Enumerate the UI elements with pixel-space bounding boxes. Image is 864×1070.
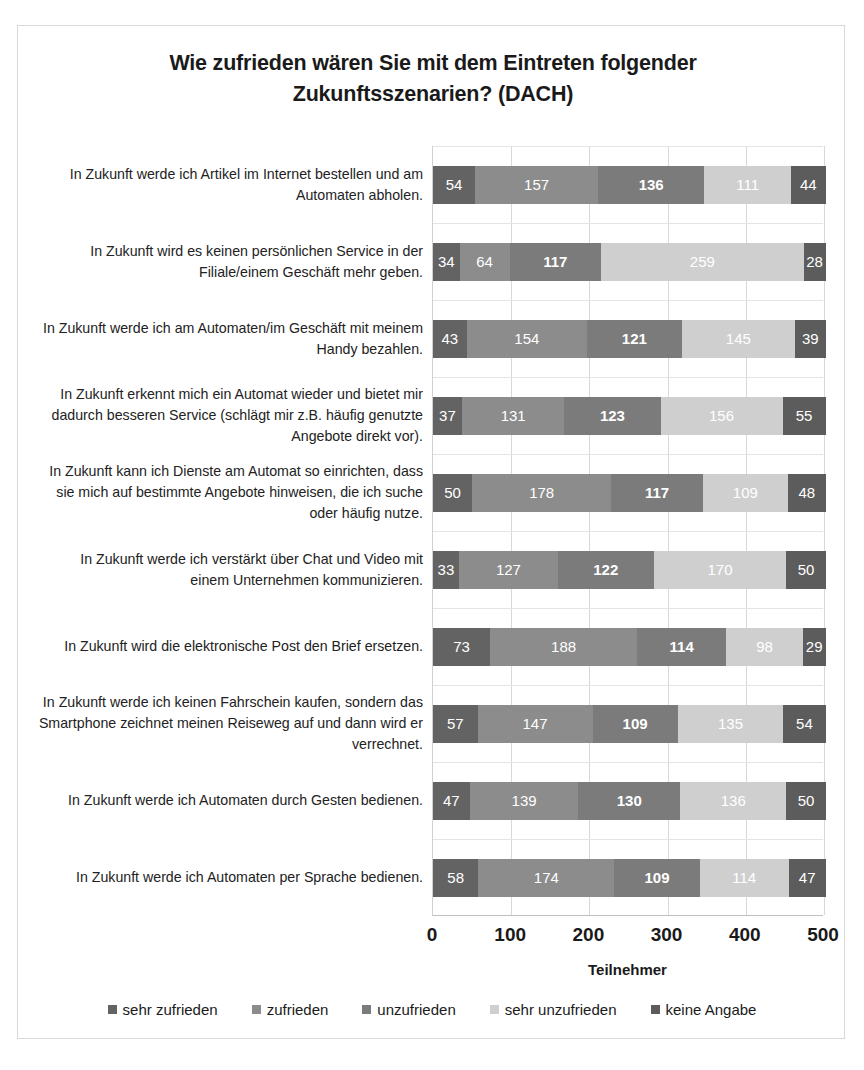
bar-segment[interactable]: 111 bbox=[704, 166, 791, 204]
category-label: In Zukunft werde ich am Automaten/im Ges… bbox=[38, 318, 423, 360]
legend-swatch-icon bbox=[108, 1005, 117, 1014]
chart-frame: Wie zufrieden wären Sie mit dem Eintrete… bbox=[17, 25, 845, 1039]
bar-segment[interactable]: 131 bbox=[462, 397, 564, 435]
chart-row: 4713913013650 bbox=[433, 762, 823, 839]
legend-swatch-icon bbox=[252, 1005, 261, 1014]
bar-segment[interactable]: 122 bbox=[558, 551, 653, 589]
bar-segment[interactable]: 145 bbox=[682, 320, 795, 358]
legend-item[interactable]: unzufrieden bbox=[362, 1001, 455, 1018]
bar-segment[interactable]: 109 bbox=[703, 474, 788, 512]
bar-segment[interactable]: 170 bbox=[654, 551, 787, 589]
bar-segment[interactable]: 73 bbox=[433, 628, 490, 666]
chart-row: 346411725928 bbox=[433, 223, 823, 300]
stacked-bar[interactable]: 3713112315655 bbox=[433, 397, 826, 435]
x-tick-label: 0 bbox=[402, 924, 462, 946]
bar-segment[interactable]: 121 bbox=[587, 320, 682, 358]
bar-segment[interactable]: 127 bbox=[459, 551, 558, 589]
x-tick-label: 200 bbox=[558, 924, 618, 946]
bar-segment[interactable]: 39 bbox=[795, 320, 825, 358]
bar-segment[interactable]: 58 bbox=[433, 859, 478, 897]
bar-segment[interactable]: 135 bbox=[678, 705, 784, 743]
chart-row: 5017811710948 bbox=[433, 454, 823, 531]
category-label: In Zukunft werde ich keinen Fahrschein k… bbox=[38, 692, 423, 755]
bar-segment[interactable]: 136 bbox=[598, 166, 704, 204]
bar-segment[interactable]: 50 bbox=[433, 474, 472, 512]
bar-segment[interactable]: 34 bbox=[433, 243, 460, 281]
bar-segment[interactable]: 29 bbox=[803, 628, 826, 666]
stacked-bar[interactable]: 4713913013650 bbox=[433, 782, 826, 820]
plot-area: 5415713611144346411725928431541211453937… bbox=[432, 146, 823, 916]
x-tick-label: 400 bbox=[715, 924, 775, 946]
stacked-bar[interactable]: 5817410911447 bbox=[433, 859, 826, 897]
legend-swatch-icon bbox=[362, 1005, 371, 1014]
bar-segment[interactable]: 156 bbox=[661, 397, 783, 435]
bar-segment[interactable]: 47 bbox=[433, 782, 470, 820]
stacked-bar[interactable]: 731881149829 bbox=[433, 628, 826, 666]
bar-segment[interactable]: 47 bbox=[789, 859, 826, 897]
legend-label: keine Angabe bbox=[666, 1001, 757, 1018]
bar-segment[interactable]: 54 bbox=[433, 166, 475, 204]
bar-segment[interactable]: 154 bbox=[467, 320, 587, 358]
legend-swatch-icon bbox=[651, 1005, 660, 1014]
bar-segment[interactable]: 188 bbox=[490, 628, 637, 666]
chart-legend: sehr zufriedenzufriedenunzufriedensehr u… bbox=[18, 1001, 846, 1018]
stacked-bar[interactable]: 5017811710948 bbox=[433, 474, 826, 512]
category-label: In Zukunft erkennt mich ein Automat wied… bbox=[38, 384, 423, 447]
legend-item[interactable]: sehr zufrieden bbox=[108, 1001, 218, 1018]
bar-segment[interactable]: 44 bbox=[791, 166, 825, 204]
bar-segment[interactable]: 147 bbox=[478, 705, 593, 743]
chart-row: 3312712217050 bbox=[433, 531, 823, 608]
legend-item[interactable]: keine Angabe bbox=[651, 1001, 757, 1018]
bar-segment[interactable]: 57 bbox=[433, 705, 478, 743]
category-label: In Zukunft werde ich verstärkt über Chat… bbox=[38, 549, 423, 591]
chart-row: 5415713611144 bbox=[433, 146, 823, 223]
bar-segment[interactable]: 259 bbox=[601, 243, 804, 281]
bar-segment[interactable]: 139 bbox=[470, 782, 579, 820]
category-label: In Zukunft werde ich Artikel im Internet… bbox=[38, 164, 423, 206]
chart-title: Wie zufrieden wären Sie mit dem Eintrete… bbox=[58, 48, 808, 110]
bar-segment[interactable]: 33 bbox=[433, 551, 459, 589]
bar-segment[interactable]: 174 bbox=[478, 859, 614, 897]
chart-row: 5817410911447 bbox=[433, 839, 823, 916]
stacked-bar[interactable]: 5415713611144 bbox=[433, 166, 826, 204]
stacked-bar[interactable]: 346411725928 bbox=[433, 243, 826, 281]
bar-segment[interactable]: 109 bbox=[614, 859, 699, 897]
category-label: In Zukunft kann ich Dienste am Automat s… bbox=[38, 461, 423, 524]
stacked-bar[interactable]: 3312712217050 bbox=[433, 551, 826, 589]
bar-segment[interactable]: 50 bbox=[786, 551, 825, 589]
bar-segment[interactable]: 64 bbox=[460, 243, 510, 281]
stacked-bar[interactable]: 4315412114539 bbox=[433, 320, 826, 358]
x-tick-label: 300 bbox=[637, 924, 697, 946]
bar-segment[interactable]: 123 bbox=[564, 397, 660, 435]
stacked-bar[interactable]: 5714710913554 bbox=[433, 705, 826, 743]
bar-segment[interactable]: 98 bbox=[726, 628, 803, 666]
legend-item[interactable]: sehr unzufrieden bbox=[490, 1001, 617, 1018]
bar-segment[interactable]: 37 bbox=[433, 397, 462, 435]
bar-segment[interactable]: 43 bbox=[433, 320, 467, 358]
chart-row: 731881149829 bbox=[433, 608, 823, 685]
bar-segment[interactable]: 48 bbox=[788, 474, 826, 512]
bar-segment[interactable]: 55 bbox=[783, 397, 826, 435]
bar-segment[interactable]: 178 bbox=[472, 474, 611, 512]
bar-segment[interactable]: 109 bbox=[593, 705, 678, 743]
bar-segment[interactable]: 28 bbox=[804, 243, 826, 281]
bar-segment[interactable]: 130 bbox=[578, 782, 680, 820]
bar-segment[interactable]: 136 bbox=[680, 782, 786, 820]
bar-segment[interactable]: 50 bbox=[786, 782, 825, 820]
category-label: In Zukunft wird die elektronische Post d… bbox=[38, 636, 423, 657]
bar-segment[interactable]: 54 bbox=[783, 705, 825, 743]
legend-swatch-icon bbox=[490, 1005, 499, 1014]
chart-row: 4315412114539 bbox=[433, 300, 823, 377]
bar-segment[interactable]: 114 bbox=[700, 859, 789, 897]
legend-item[interactable]: zufrieden bbox=[252, 1001, 329, 1018]
bar-segment[interactable]: 157 bbox=[475, 166, 598, 204]
category-label: In Zukunft werde ich Automaten per Sprac… bbox=[38, 867, 423, 888]
chart-title-line-1: Wie zufrieden wären Sie mit dem Eintrete… bbox=[58, 48, 808, 79]
bar-segment[interactable]: 114 bbox=[637, 628, 726, 666]
bar-segment[interactable]: 117 bbox=[510, 243, 601, 281]
x-axis-title: Teilnehmer bbox=[432, 961, 823, 978]
x-tick-label: 500 bbox=[793, 924, 853, 946]
legend-label: sehr unzufrieden bbox=[505, 1001, 617, 1018]
category-label: In Zukunft werde ich Automaten durch Ges… bbox=[38, 790, 423, 811]
bar-segment[interactable]: 117 bbox=[611, 474, 702, 512]
